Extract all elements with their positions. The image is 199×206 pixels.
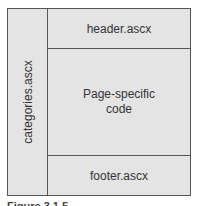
sidebar-label: categories.ascx	[21, 60, 35, 143]
footer-label: footer.ascx	[90, 169, 148, 183]
page-layout-diagram: categories.ascx header.ascx Page-specifi…	[7, 8, 191, 196]
header-label: header.ascx	[87, 22, 152, 36]
sidebar-region: categories.ascx	[8, 9, 48, 195]
content-region: Page-specific code	[48, 49, 190, 155]
figure-caption: Figure 3.1.5	[7, 200, 68, 206]
header-region: header.ascx	[48, 9, 190, 49]
footer-region: footer.ascx	[48, 155, 190, 195]
content-label: Page-specific code	[74, 87, 164, 117]
